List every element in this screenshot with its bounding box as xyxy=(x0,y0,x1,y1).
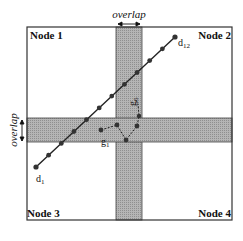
overlap-left-label: overlap xyxy=(7,113,19,147)
d-start-label: d1 xyxy=(36,173,45,186)
overlap-top-arrow-icon xyxy=(118,22,140,26)
node-3-label: Node 3 xyxy=(27,207,60,219)
trajectory-d: d1 d12 xyxy=(33,34,190,186)
node-1-label: Node 1 xyxy=(30,29,63,41)
overlap-top-label: overlap xyxy=(112,8,146,20)
partition-diagram: Node 1 Node 2 Node 3 Node 4 overlap over… xyxy=(0,0,243,241)
node-2-label: Node 2 xyxy=(198,29,231,41)
overlap-left-arrow-icon xyxy=(20,120,24,141)
horizontal-overlap-band xyxy=(27,118,232,142)
diagram-canvas: Node 1 Node 2 Node 3 Node 4 overlap over… xyxy=(0,0,243,241)
d-end-label: d12 xyxy=(178,37,191,50)
node-4-label: Node 4 xyxy=(198,207,231,219)
